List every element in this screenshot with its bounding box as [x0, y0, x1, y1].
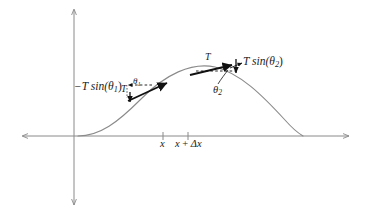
x-tick-label-1: x: [160, 139, 165, 150]
force-diagram-figure: −T sin(θ1) T sin(θ2) T T θ1 θ2 x x + Δx: [0, 0, 369, 216]
label-t-sin-theta2: T sin(θ2): [243, 56, 283, 70]
label-minus-t-sin-theta1: −T sin(θ1): [74, 81, 122, 95]
label-tension-right: T: [205, 52, 211, 62]
label-theta1: θ1: [133, 77, 141, 87]
figure-canvas: [0, 0, 369, 216]
x-tick-label-2: x + Δx: [175, 139, 202, 150]
string-displacement-curve: [78, 66, 303, 136]
theta2-leader-line: [218, 70, 228, 84]
label-theta2: θ2: [213, 85, 222, 97]
label-tension-left: T: [121, 84, 127, 94]
